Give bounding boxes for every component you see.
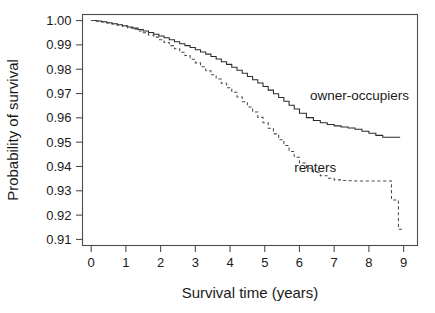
- series-annotation: renters: [294, 160, 336, 175]
- y-tick-label: 0.94: [46, 159, 71, 174]
- y-tick-label: 0.91: [46, 232, 71, 247]
- x-tick-label: 1: [122, 255, 129, 270]
- x-tick-label: 0: [88, 255, 95, 270]
- y-axis-title: Probability of survival: [4, 59, 21, 201]
- y-tick-label: 0.93: [46, 183, 71, 198]
- series-annotations-group: owner-occupiersrenters: [294, 88, 409, 175]
- y-tick-label: 0.97: [46, 86, 71, 101]
- x-tick-label: 5: [261, 255, 268, 270]
- curve-renters: [91, 21, 403, 230]
- x-tick-label: 6: [296, 255, 303, 270]
- y-tick-label: 0.92: [46, 208, 71, 223]
- y-tick-label: 0.96: [46, 110, 71, 125]
- chart-canvas: 1.000.990.980.970.960.950.940.930.920.91…: [0, 0, 435, 313]
- x-tick-label: 4: [226, 255, 233, 270]
- y-tick-label: 0.99: [46, 37, 71, 52]
- x-tick-label: 2: [157, 255, 164, 270]
- curve-owner-occupiers: [91, 21, 400, 138]
- plot-frame: [83, 15, 418, 246]
- y-axis-tick-labels-group: 1.000.990.980.970.960.950.940.930.920.91: [46, 13, 71, 247]
- plot-frame-group: [83, 15, 418, 246]
- series-annotation: owner-occupiers: [310, 88, 409, 103]
- y-tick-label: 0.98: [46, 62, 71, 77]
- y-tick-label: 1.00: [46, 13, 71, 28]
- x-axis-ticks-group: [91, 246, 403, 253]
- data-curves-group: [91, 21, 403, 230]
- survival-curve-figure: 1.000.990.980.970.960.950.940.930.920.91…: [0, 0, 435, 313]
- x-tick-label: 8: [365, 255, 372, 270]
- x-tick-label: 7: [331, 255, 338, 270]
- x-axis-title: Survival time (years): [182, 284, 319, 301]
- x-axis-tick-labels-group: 0123456789: [88, 255, 408, 270]
- x-tick-label: 9: [400, 255, 407, 270]
- x-tick-label: 3: [192, 255, 199, 270]
- y-axis-ticks-group: [76, 21, 83, 240]
- y-tick-label: 0.95: [46, 135, 71, 150]
